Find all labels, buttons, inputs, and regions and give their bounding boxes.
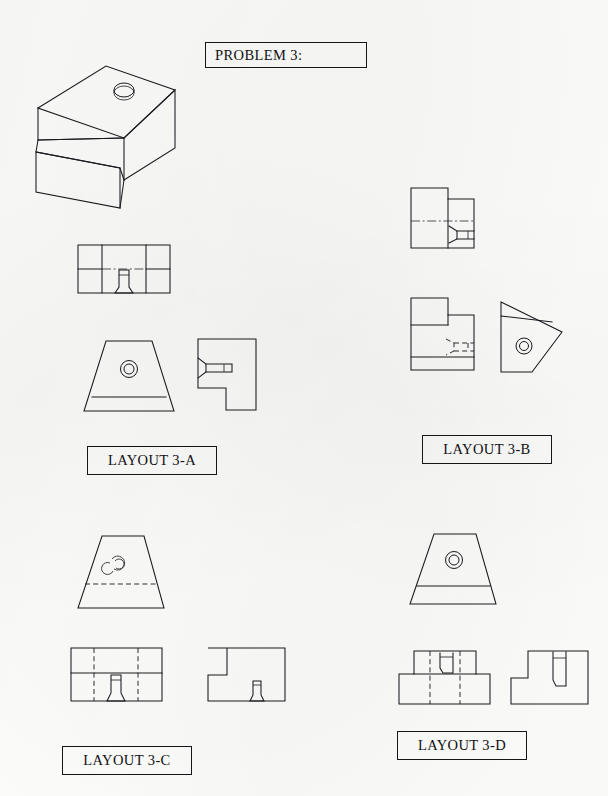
layout-a-label-text: LAYOUT 3-A [108, 452, 196, 469]
problem-title-box: PROBLEM 3: [205, 42, 367, 68]
layout-b-upper-view [408, 185, 480, 251]
layout-c-label-text: LAYOUT 3-C [83, 752, 170, 769]
layout-c-label-box: LAYOUT 3-C [62, 746, 192, 775]
layout-b-label-text: LAYOUT 3-B [443, 441, 530, 458]
layout-a-front-view [80, 337, 178, 415]
isometric-pictorial-drawing [28, 52, 194, 184]
layout-b-rotated-view [494, 300, 566, 378]
layout-d-side-view [508, 648, 592, 708]
worksheet-page: PROBLEM 3: [0, 0, 608, 796]
layout-c-side-view [205, 645, 289, 705]
layout-a-top-view [76, 243, 172, 295]
layout-d-label-text: LAYOUT 3-D [418, 737, 506, 754]
problem-title-text: PROBLEM 3: [215, 47, 302, 64]
layout-a-label-box: LAYOUT 3-A [87, 446, 217, 475]
layout-c-top-view [72, 532, 170, 612]
layout-d-top-view [404, 530, 502, 610]
layout-c-front-view [68, 645, 166, 705]
layout-b-lower-view [408, 295, 480, 373]
layout-b-label-box: LAYOUT 3-B [422, 435, 552, 464]
layout-a-side-view [194, 336, 260, 414]
layout-d-label-box: LAYOUT 3-D [397, 731, 527, 760]
layout-d-front-view [396, 648, 494, 708]
